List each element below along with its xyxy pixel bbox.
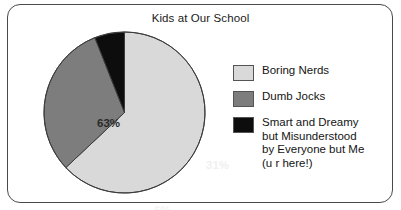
legend-item-smart-and-dreamy: Smart and Dreamy but Misunderstood by Ev… (233, 116, 388, 170)
legend-swatch-icon-dumb-jocks (233, 91, 254, 107)
chart-title: Kids at Our School (0, 12, 401, 24)
pie-chart-svg (43, 31, 206, 194)
legend-label-dumb-jocks: Dumb Jocks (262, 90, 325, 104)
legend-item-boring-nerds: Boring Nerds (233, 64, 388, 81)
pie-slice-label-smart-and-dreamy: 6% (154, 204, 171, 210)
pie-slice-label-dumb-jocks: 31% (206, 159, 229, 171)
chart-legend: Boring Nerds Dumb Jocks Smart and Dreamy… (233, 64, 388, 179)
pie-chart: 63% 31% 6% (43, 31, 206, 194)
legend-item-dumb-jocks: Dumb Jocks (233, 90, 388, 107)
legend-label-boring-nerds: Boring Nerds (262, 64, 329, 78)
pie-slice-label-boring-nerds: 63% (97, 117, 120, 129)
legend-swatch-icon-smart-and-dreamy (233, 117, 254, 133)
chart-page: Kids at Our School 63% 31% 6% Boring Ner… (0, 0, 401, 210)
legend-swatch-icon-boring-nerds (233, 65, 254, 81)
legend-label-smart-and-dreamy: Smart and Dreamy but Misunderstood by Ev… (262, 116, 364, 170)
